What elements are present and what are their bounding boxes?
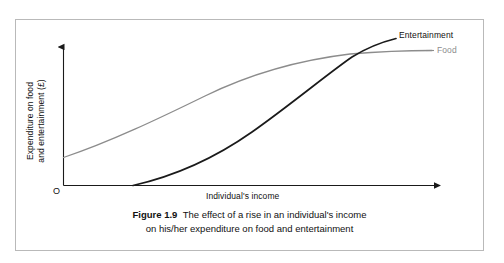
food-curve bbox=[64, 51, 433, 158]
y-axis-label-line-2: and entertainment (£) bbox=[36, 79, 46, 162]
figure-container: Expenditure on food and entertainment (£… bbox=[0, 0, 504, 263]
x-axis-label: Individual's income bbox=[206, 191, 279, 201]
y-axis-label-line-1: Expenditure on food bbox=[25, 82, 35, 160]
caption-line-1: Figure 1.9 The effect of a rise in an in… bbox=[15, 208, 484, 222]
caption-figure-number: Figure 1.9 bbox=[133, 209, 178, 220]
entertainment-series-label: Entertainment bbox=[399, 30, 453, 40]
figure-caption: Figure 1.9 The effect of a rise in an in… bbox=[15, 208, 484, 235]
caption-line-2: on his/her expenditure on food and enter… bbox=[15, 222, 484, 236]
y-axis-label: Expenditure on food and entertainment (£… bbox=[25, 61, 47, 181]
caption-text-line-1: The effect of a rise in an individual's … bbox=[183, 209, 367, 220]
origin-label: O bbox=[53, 186, 60, 196]
food-series-label: Food bbox=[437, 45, 457, 55]
